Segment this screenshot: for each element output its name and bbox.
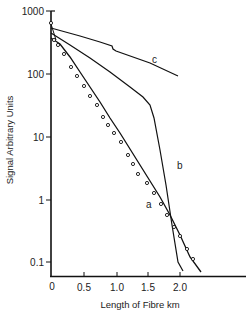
y-tick-10: 10: [33, 132, 45, 143]
chart: 1000 100 10 1 0.1 0 0.5 1.0 1.5 2.0 Leng…: [0, 0, 251, 315]
curve-a-label: a: [146, 199, 152, 210]
y-tick-1000: 1000: [22, 6, 45, 17]
y-tick-100: 100: [27, 69, 44, 80]
x-axis-title: Length of Fibre km: [100, 299, 179, 310]
x-tick-labels: 0 0.5 1.0 1.5 2.0: [49, 281, 187, 293]
curve-b-label: b: [177, 160, 183, 171]
x-tick-0.5: 0.5: [77, 282, 91, 293]
x-tick-1.0: 1.0: [110, 282, 124, 293]
x-tick-0: 0: [49, 281, 55, 292]
y-tick-0.1: 0.1: [30, 257, 44, 268]
curve-a-markers: [49, 21, 194, 260]
y-axis-title: Signal Arbitrary Units: [4, 95, 15, 184]
y-tick-1: 1: [38, 195, 44, 206]
x-tick-1.5: 1.5: [141, 282, 155, 293]
axes: [46, 11, 246, 277]
x-tick-2.0: 2.0: [173, 282, 187, 293]
curve-c-label: c: [152, 54, 157, 65]
y-tick-labels: 1000 100 10 1 0.1: [22, 6, 45, 268]
